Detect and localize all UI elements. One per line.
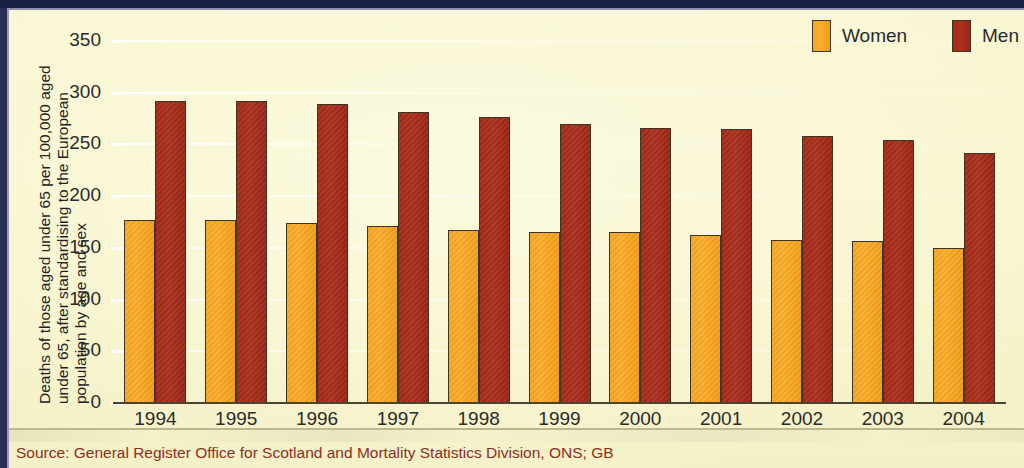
bar-group (771, 41, 833, 403)
bar-men-2002[interactable] (802, 136, 833, 403)
bar-group (205, 41, 267, 403)
x-axis-tick-label: 1994 (115, 408, 195, 430)
x-axis-tick-label: 1998 (439, 408, 519, 430)
bar-group (529, 41, 591, 403)
bar-women-2002[interactable] (771, 240, 802, 403)
bar-women-2001[interactable] (690, 235, 721, 403)
footer-divider (9, 428, 1024, 430)
bar-group (609, 41, 671, 403)
y-axis-tick-label: 150 (41, 236, 101, 258)
legend-swatch-women-icon (812, 20, 831, 52)
page-left-gutter (0, 8, 7, 468)
x-axis-tick-label: 2004 (924, 408, 1004, 430)
y-axis-tick-label: 0 (41, 391, 101, 413)
bar-group (448, 41, 510, 403)
legend-item-women[interactable]: Women (812, 20, 907, 52)
bar-men-1999[interactable] (560, 124, 591, 403)
bar-men-2000[interactable] (640, 128, 671, 403)
bar-women-1996[interactable] (286, 223, 317, 403)
bar-women-2000[interactable] (609, 232, 640, 403)
figure-page: Deaths of those aged under 65 per 100,00… (0, 0, 1024, 468)
bar-women-2004[interactable] (933, 248, 964, 403)
bar-men-1996[interactable] (317, 104, 348, 403)
plot-area (115, 41, 1004, 403)
x-axis-tick-label: 1995 (196, 408, 276, 430)
bar-women-1995[interactable] (205, 220, 236, 403)
y-axis-tick-label: 250 (41, 132, 101, 154)
bar-men-1995[interactable] (236, 101, 267, 403)
y-axis-tick-label: 350 (41, 29, 101, 51)
bar-group (367, 41, 429, 403)
y-axis-tick-label: 50 (41, 339, 101, 361)
source-note: Source: General Register Office for Scot… (16, 444, 614, 462)
x-axis-line (113, 402, 1006, 404)
y-axis-tick-label: 200 (41, 184, 101, 206)
bar-women-1994[interactable] (124, 220, 155, 403)
x-axis-tick-label: 1997 (358, 408, 438, 430)
x-axis-tick-label: 2002 (762, 408, 842, 430)
y-axis-tick-label: 100 (41, 288, 101, 310)
bar-men-2001[interactable] (721, 129, 752, 403)
bar-group (690, 41, 752, 403)
x-axis-tick-label: 2001 (681, 408, 761, 430)
bar-group (286, 41, 348, 403)
x-axis-tick-label: 2000 (600, 408, 680, 430)
bar-women-1999[interactable] (529, 232, 560, 403)
x-axis-tick-label: 1996 (277, 408, 357, 430)
legend-swatch-men-icon (952, 20, 971, 52)
bar-group (852, 41, 914, 403)
bar-men-1994[interactable] (155, 101, 186, 403)
legend-label-women: Women (842, 25, 907, 47)
page-top-band (0, 0, 1024, 8)
bar-women-1997[interactable] (367, 226, 398, 403)
bar-men-1998[interactable] (479, 117, 510, 403)
y-axis-tick-label: 300 (41, 81, 101, 103)
bar-group (124, 41, 186, 403)
legend-item-men[interactable]: Men (952, 20, 1019, 52)
bar-men-1997[interactable] (398, 112, 429, 403)
legend-label-men: Men (982, 25, 1019, 47)
bar-women-1998[interactable] (448, 230, 479, 403)
bar-women-2003[interactable] (852, 241, 883, 403)
x-axis-tick-label: 1999 (520, 408, 600, 430)
bar-men-2004[interactable] (964, 153, 995, 403)
bar-men-2003[interactable] (883, 140, 914, 403)
x-axis-tick-label: 2003 (843, 408, 923, 430)
bar-group (933, 41, 995, 403)
